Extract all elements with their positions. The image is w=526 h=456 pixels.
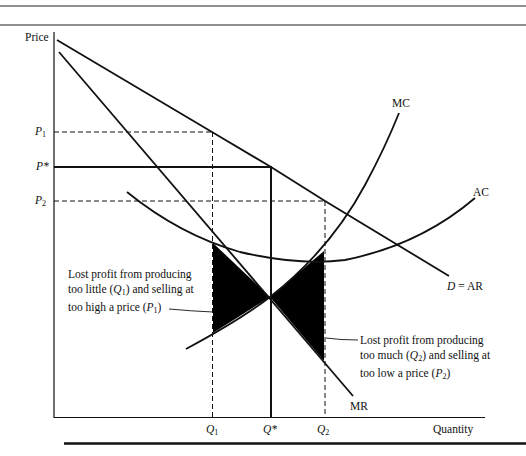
mc-label: MC bbox=[392, 97, 410, 110]
left-annotation-line2: too little (Q1) and selling at bbox=[68, 282, 194, 301]
left-annotation: Lost profit from producing too little (Q… bbox=[68, 267, 194, 319]
right-annotation-line2: too much (Q2) and selling at bbox=[360, 348, 490, 367]
right-annotation-line3: too low a price (P2) bbox=[360, 366, 490, 385]
q2-label: Q2 bbox=[317, 423, 329, 439]
right-annotation-leader bbox=[326, 338, 358, 340]
demand-curve bbox=[57, 40, 449, 276]
pstar-label: P* bbox=[36, 160, 49, 173]
qstar-label: Q* bbox=[263, 423, 277, 436]
p2-label: P2 bbox=[35, 194, 46, 210]
mr-curve bbox=[59, 52, 353, 396]
ac-label: AC bbox=[473, 186, 489, 199]
right-annotation: Lost profit from producing too much (Q2)… bbox=[360, 333, 490, 385]
y-axis-label: Price bbox=[25, 31, 49, 44]
left-annotation-line3: too high a price (P1) bbox=[68, 300, 194, 319]
lost-profit-right-area bbox=[270, 251, 324, 361]
right-annotation-line1: Lost profit from producing bbox=[360, 333, 490, 348]
ac-curve bbox=[127, 192, 475, 262]
mr-label: MR bbox=[350, 400, 368, 413]
x-axis-label: Quantity bbox=[433, 423, 473, 436]
profit-diagram bbox=[0, 0, 526, 456]
left-annotation-line1: Lost profit from producing bbox=[68, 267, 194, 282]
demand-label: D = AR bbox=[447, 280, 483, 293]
p1-label: P1 bbox=[35, 125, 46, 141]
q1-label: Q1 bbox=[206, 423, 218, 439]
